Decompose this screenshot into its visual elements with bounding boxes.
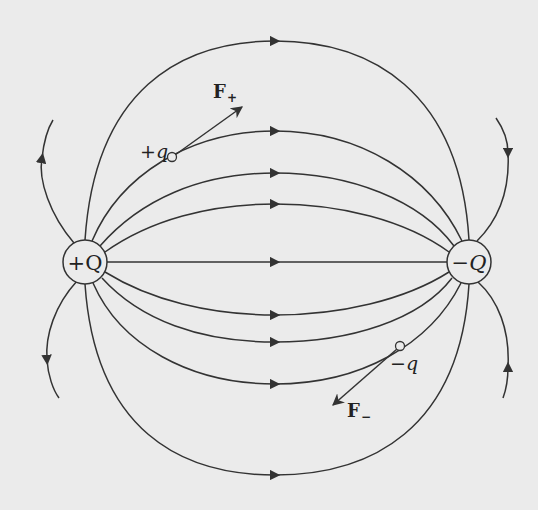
test-charge-minus-q: −q: [390, 342, 418, 375]
minus-Q-label: −Q: [452, 251, 487, 275]
plus-q-label: +q: [140, 140, 168, 162]
svg-text:−: −: [361, 410, 371, 424]
svg-text:F: F: [347, 400, 360, 421]
outer-field-lines: [41, 118, 508, 398]
test-charge-plus-q: +q: [140, 140, 177, 162]
force-arrow-minus: [333, 349, 397, 405]
force-label-plus: F +: [213, 81, 237, 105]
force-arrow-plus: [175, 107, 242, 155]
field-lines-svg: +Q −Q +q −q F + F −: [0, 0, 538, 510]
minus-q-label: −q: [390, 352, 418, 374]
plus-Q-label: +Q: [68, 251, 103, 275]
svg-text:+: +: [227, 91, 237, 105]
force-label-minus: F −: [347, 400, 371, 424]
charge-plus-Q: +Q: [63, 240, 107, 284]
field-diagram: +Q −Q +q −q F + F −: [0, 0, 538, 510]
charge-minus-Q: −Q: [447, 240, 491, 284]
svg-text:F: F: [213, 81, 226, 102]
